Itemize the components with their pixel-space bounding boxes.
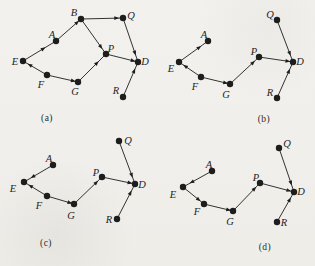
arrowhead-icon [132, 50, 136, 55]
arrowhead-icon [40, 47, 45, 51]
panel-caption-d: (d) [259, 242, 272, 253]
graph-node-label-c-A: A [45, 153, 53, 164]
graph-node-dot-c-Q [116, 138, 122, 144]
figure-svg: EABQPDFGR(a)QAEFGPDR(b)QAEFGPDR(c)QAEFGP… [0, 0, 315, 266]
graph-node-label-a-A: A [48, 29, 56, 40]
panel-d: QAEFGPDR(d) [169, 138, 305, 253]
graph-node-label-b-F: F [191, 81, 199, 92]
graph-node-label-c-Q: Q [124, 135, 132, 146]
arrowhead-icon [288, 180, 292, 185]
graph-edge-E-A [23, 41, 56, 61]
graph-edge-R-D [277, 62, 293, 98]
graph-edge-A-E [183, 171, 212, 187]
arrowhead-icon [190, 179, 195, 183]
graph-node-dot-a-E [20, 58, 26, 64]
graph-node-label-b-A: A [200, 29, 208, 40]
graph-node-label-b-Q: Q [266, 9, 274, 20]
graph-node-dot-d-F [201, 201, 207, 207]
graph-node-label-b-E: E [167, 63, 175, 74]
graph-node-dot-c-E [21, 179, 27, 185]
graph-node-label-b-P: P [250, 46, 258, 57]
graph-node-label-a-B: B [71, 7, 78, 18]
graph-node-dot-b-R [274, 95, 280, 101]
graph-node-label-d-Q: Q [283, 138, 291, 149]
graph-node-dot-a-B [78, 16, 84, 22]
graph-node-label-d-E: E [169, 189, 177, 200]
graph-node-dot-d-E [180, 184, 186, 190]
graph-node-dot-b-E [176, 59, 182, 65]
graph-node-dot-c-R [114, 216, 120, 222]
arrowhead-icon [286, 188, 291, 192]
arrowhead-icon [183, 65, 188, 69]
arrowhead-icon [28, 185, 33, 189]
graph-node-label-a-G: G [71, 86, 79, 97]
graph-node-dot-d-G [230, 208, 236, 214]
graph-node-label-a-R: R [112, 85, 120, 96]
graph-node-label-c-R: R [105, 214, 113, 225]
graph-node-label-d-A: A [205, 159, 213, 170]
graph-node-dot-b-Q [274, 17, 280, 23]
graph-node-label-c-G: G [67, 210, 75, 221]
panel-caption-b: (b) [258, 114, 271, 125]
graph-node-label-c-F: F [35, 200, 43, 211]
graph-edge-R-D [117, 184, 135, 219]
graph-edge-A-E [24, 165, 53, 182]
graph-node-dot-b-F [198, 74, 204, 80]
arrowhead-icon [28, 64, 33, 68]
graph-edge-F-E [24, 182, 47, 196]
arrowhead-icon [287, 197, 291, 202]
graph-node-label-d-G: G [226, 216, 234, 227]
graph-node-label-b-D: D [295, 56, 304, 67]
graph-node-dot-a-R [120, 94, 126, 100]
graph-node-label-b-G: G [222, 89, 230, 100]
graph-node-label-d-F: F [193, 206, 201, 217]
arrowhead-icon [286, 69, 290, 74]
arrowhead-icon [287, 51, 291, 56]
arrowhead-icon [132, 69, 136, 74]
graph-edge-E-A [179, 41, 208, 62]
graph-node-label-d-D: D [296, 186, 305, 197]
arrowhead-icon [128, 191, 132, 196]
graph-edge-G-P [78, 54, 106, 82]
arrowhead-icon [129, 172, 133, 177]
graph-edge-E-F [183, 187, 204, 204]
graph-node-label-b-R: R [266, 87, 274, 98]
scanned-figure-page: EABQPDFGR(a)QAEFGPDR(b)QAEFGPDR(c)QAEFGP… [0, 0, 315, 266]
panel-caption-c: (c) [40, 238, 52, 249]
graph-node-label-a-P: P [107, 43, 115, 54]
panel-caption-a: (a) [41, 113, 53, 124]
graph-node-label-d-R: R [280, 217, 288, 228]
graph-node-label-a-D: D [140, 56, 149, 67]
graph-edge-F-E [23, 61, 47, 75]
arrowhead-icon [285, 59, 290, 63]
panel-b: QAEFGPDR(b) [167, 9, 304, 125]
graph-node-dot-c-G [71, 201, 77, 207]
graph-edge-R-D [123, 62, 138, 97]
graph-node-label-c-E: E [9, 183, 17, 194]
graph-node-label-c-D: D [137, 179, 146, 190]
arrowhead-icon [98, 44, 102, 49]
graph-node-dot-a-F [44, 72, 50, 78]
arrowhead-icon [31, 174, 36, 178]
graph-node-dot-b-G [227, 81, 233, 87]
arrowhead-icon [127, 181, 132, 185]
graph-node-dot-a-G [75, 79, 81, 85]
graph-node-label-a-E: E [11, 56, 19, 67]
graph-node-label-a-Q: Q [127, 10, 135, 21]
graph-node-label-d-P: P [252, 172, 260, 183]
graph-node-label-a-F: F [37, 79, 45, 90]
panel-a: EABQPDFGR(a) [11, 7, 149, 124]
graph-node-dot-c-F [44, 193, 50, 199]
arrowhead-icon [196, 46, 201, 50]
graph-edge-F-E [179, 62, 201, 77]
graph-node-dot-d-Q [276, 145, 282, 151]
panel-c: QAEFGPDR(c) [9, 135, 146, 249]
graph-node-dot-a-Q [120, 15, 126, 21]
graph-node-label-c-P: P [92, 167, 100, 178]
arrowhead-icon [114, 16, 119, 20]
graph-node-dot-d-R [274, 219, 280, 225]
graph-node-dot-c-P [99, 174, 105, 180]
